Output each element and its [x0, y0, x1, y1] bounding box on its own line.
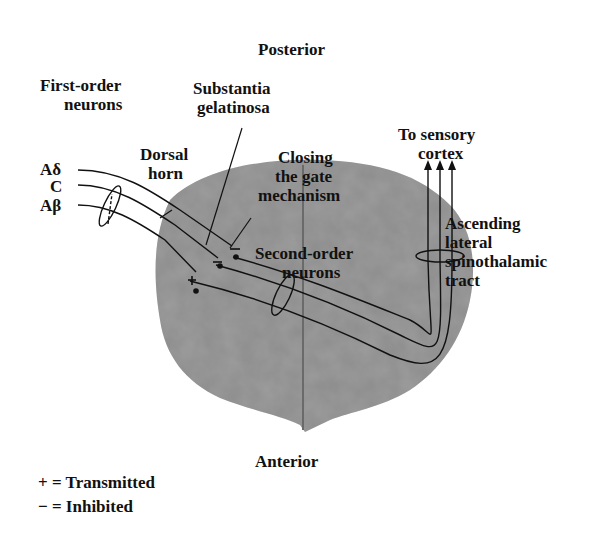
- label-posterior: Posterior: [258, 40, 325, 59]
- label-fiber-a-beta: Aβ: [40, 196, 61, 215]
- label-dorsal-1: Dorsal: [140, 145, 188, 164]
- label-ascending-1: Ascending: [445, 214, 521, 233]
- label-closing-3: mechanism: [258, 186, 340, 205]
- legend-transmitted: + = Transmitted: [38, 473, 155, 492]
- label-fiber-c: C: [50, 177, 62, 196]
- label-ascending-2: lateral: [445, 233, 492, 252]
- label-dorsal-2: horn: [148, 164, 183, 183]
- legend-inhibited: − = Inhibited: [38, 497, 133, 516]
- label-substantia-1: Substantia: [193, 79, 270, 98]
- label-first-order-1: First-order: [40, 76, 121, 95]
- label-to-cortex-2: cortex: [418, 144, 463, 163]
- label-substantia-2: gelatinosa: [197, 98, 270, 117]
- label-ascending-3: spinothalamic: [445, 252, 547, 271]
- label-anterior: Anterior: [255, 452, 318, 471]
- label-closing-1: Closing: [278, 148, 333, 167]
- label-first-order-2: neurons: [64, 95, 122, 114]
- label-closing-2: the gate: [275, 167, 332, 186]
- label-second-order-2: neurons: [282, 263, 340, 282]
- label-second-order-1: Second-order: [255, 244, 353, 263]
- label-ascending-4: tract: [445, 271, 480, 290]
- label-to-cortex-1: To sensory: [398, 125, 475, 144]
